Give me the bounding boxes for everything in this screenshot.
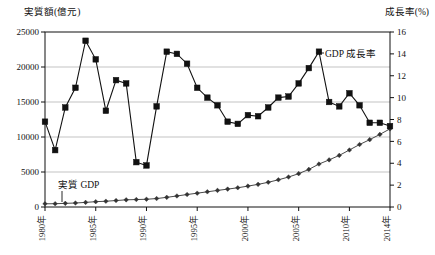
series-marker [327, 158, 332, 163]
series-marker [215, 102, 221, 108]
series-marker [73, 85, 79, 91]
series-marker [245, 112, 251, 118]
series-marker [276, 178, 281, 183]
series-marker [205, 190, 210, 195]
series-marker [378, 132, 383, 137]
right-axis-tick-label: 4 [397, 158, 402, 168]
series-marker [337, 153, 342, 158]
right-axis-tick-label: 2 [397, 180, 402, 190]
series-marker [103, 108, 109, 114]
left-axis-tick-label: 5000 [21, 167, 40, 177]
right-axis-tick-label: 14 [397, 49, 407, 59]
x-axis-tick-label: 2010年 [340, 215, 351, 241]
series-marker [265, 105, 271, 111]
series-marker [307, 167, 312, 172]
series-marker [255, 113, 261, 119]
right-axis-tick-label: 0 [397, 202, 402, 212]
series-marker [124, 198, 129, 203]
series-marker [347, 90, 353, 96]
series-marker [175, 194, 180, 199]
series-marker [296, 81, 302, 87]
series-marker [235, 121, 241, 127]
series-marker [164, 195, 169, 200]
series-marker [63, 201, 68, 206]
series-marker [52, 147, 58, 153]
series-marker [357, 102, 363, 108]
series-marker [73, 201, 78, 206]
chart-container: 実質額(億元) 成長率(%) 0500010000150002000025000… [0, 0, 435, 255]
series-marker [144, 163, 150, 169]
series-marker [225, 187, 230, 192]
series-marker [326, 99, 332, 105]
series-marker [83, 38, 89, 44]
series-marker [62, 105, 68, 111]
right-axis-tick-label: 10 [397, 93, 407, 103]
x-axis-tick-label: 2000年 [239, 215, 250, 241]
series-marker [185, 192, 190, 197]
series-marker [276, 95, 282, 101]
left-axis-tick-label: 25000 [17, 27, 40, 37]
right-axis-tick-label: 8 [397, 115, 402, 125]
real-gdp-series-label: 実質 GDP [58, 179, 99, 190]
plot-area: 0500010000150002000025000024681012141619… [0, 0, 435, 255]
x-axis-tick-label: 1990年 [137, 215, 148, 241]
series-marker [174, 51, 180, 57]
series-marker [154, 104, 160, 110]
series-marker [256, 182, 261, 187]
series-marker [53, 201, 58, 206]
series-marker [195, 191, 200, 196]
right-axis-tick-label: 12 [397, 71, 406, 81]
x-axis-tick-label: 1980年 [36, 215, 47, 241]
series-marker [134, 197, 139, 202]
left-axis-tick-label: 0 [35, 202, 40, 212]
series-marker [113, 77, 119, 83]
x-axis-tick-label: 1985年 [87, 215, 98, 241]
series-marker [367, 120, 373, 126]
series-marker [357, 142, 362, 147]
series-marker [316, 49, 322, 55]
series-marker [184, 61, 190, 67]
series-marker [286, 94, 292, 100]
series-marker [114, 198, 119, 203]
left-axis-tick-label: 15000 [17, 97, 40, 107]
series-marker [377, 120, 383, 126]
growth-rate-series-label: GDP 成長率 [325, 48, 376, 59]
series-marker [367, 137, 372, 142]
right-axis-tick-label: 6 [397, 137, 402, 147]
series-marker [154, 196, 159, 201]
series-marker [42, 119, 48, 125]
series-marker [194, 85, 200, 91]
series-marker [215, 188, 220, 193]
series-marker [104, 199, 109, 204]
series-marker [246, 184, 251, 189]
series-marker [144, 197, 149, 202]
series-marker [306, 65, 312, 71]
series-marker [317, 162, 322, 167]
series-marker [83, 200, 88, 205]
series-marker [93, 199, 98, 204]
right-axis-tick-label: 16 [397, 27, 407, 37]
series-marker [93, 57, 99, 63]
series-marker [235, 185, 240, 190]
series-marker [225, 119, 231, 125]
series-marker [336, 104, 342, 110]
series-marker [123, 81, 129, 87]
x-axis-tick-label: 2005年 [290, 215, 301, 241]
series-marker [164, 49, 170, 55]
series-marker [347, 148, 352, 153]
series-marker [205, 95, 211, 101]
series-marker [266, 180, 271, 185]
x-axis-tick-label: 1995年 [188, 215, 199, 241]
series-marker [134, 159, 140, 165]
series-marker [286, 175, 291, 180]
left-axis-tick-label: 10000 [17, 132, 40, 142]
series-marker [43, 202, 48, 207]
x-axis-tick-label: 2014年 [381, 215, 392, 241]
left-axis-tick-label: 20000 [17, 62, 40, 72]
series-marker [387, 123, 393, 129]
